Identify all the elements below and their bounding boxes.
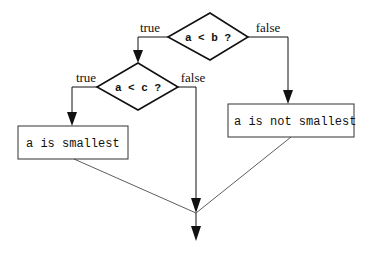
edge-merge-exit	[191, 213, 201, 241]
edge-d2-true	[67, 87, 97, 126]
edge-d1-false	[248, 37, 293, 104]
process-a-is-smallest-text: a is smallest	[26, 137, 120, 151]
d1-true-label: true	[140, 20, 160, 35]
flowchart: a < b ? true false a < c ? true false a …	[0, 0, 369, 254]
d2-true-label: true	[76, 70, 96, 85]
arrowhead-icon	[67, 112, 77, 126]
edge-p1-merge	[74, 159, 196, 213]
decision-a-less-c: a < c ?	[97, 63, 178, 110]
decision-a-less-b-text: a < b ?	[185, 32, 231, 44]
process-a-is-not-smallest: a is not smallest	[228, 104, 356, 137]
edge-d2-false	[178, 87, 201, 213]
arrowhead-icon	[133, 50, 143, 63]
process-a-is-not-smallest-text: a is not smallest	[234, 115, 356, 129]
arrowhead-icon	[191, 198, 201, 213]
arrowhead-icon	[191, 226, 201, 241]
edge-p2-merge	[196, 137, 291, 213]
process-a-is-smallest: a is smallest	[18, 126, 128, 159]
decision-a-less-b: a < b ?	[168, 13, 248, 60]
edge-d1-true	[133, 37, 168, 63]
arrowhead-icon	[283, 90, 293, 104]
decision-a-less-c-text: a < c ?	[115, 82, 161, 94]
d1-false-label: false	[256, 20, 281, 35]
d2-false-label: false	[181, 70, 206, 85]
